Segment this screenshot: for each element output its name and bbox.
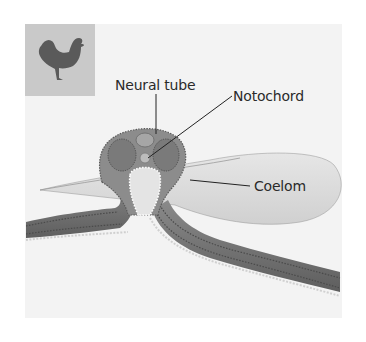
label-notochord: Notochord	[233, 88, 304, 104]
label-neural-tube: Neural tube	[115, 77, 195, 93]
label-coelom: Coelom	[254, 178, 306, 194]
neural-tube-structure	[136, 133, 154, 147]
organism-icon-box	[25, 24, 95, 96]
chicken-icon	[33, 32, 87, 88]
notochord-leader	[148, 96, 232, 158]
